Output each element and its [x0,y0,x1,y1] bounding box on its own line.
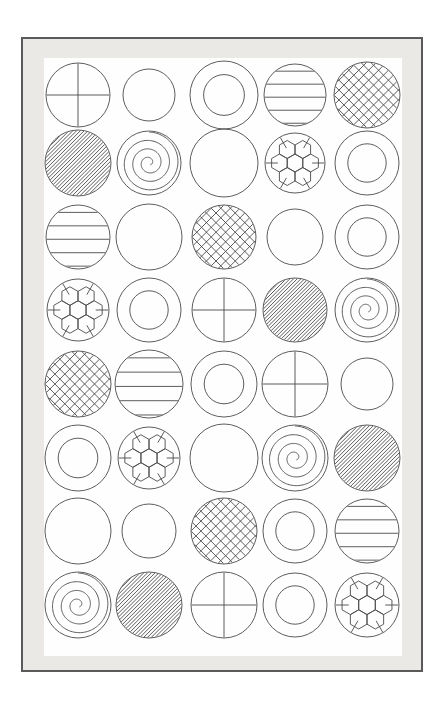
circle-horizontal-stripes [264,64,326,126]
circle-plain [190,424,258,492]
circle-cross [262,351,328,417]
circle-plain [190,129,258,197]
circle-concentric-ring [335,131,399,195]
circle-soccer-hexagon [118,427,180,489]
circle-diagonal-hatch [238,409,425,508]
circle-cross [46,63,110,127]
circle-plain [45,498,111,564]
circle-cross [191,572,257,638]
circle-plain [267,209,323,265]
circle-horizontal-stripes [46,205,110,269]
circle-soccer-hexagon [47,279,109,341]
circle-horizontal-stripes [335,499,399,563]
circle-concentric-ring [45,425,111,491]
circle-spiral [262,425,328,491]
circle-spiral [117,131,181,195]
circle-soccer-hexagon [265,133,325,193]
circle-grid [23,39,425,674]
circle-crosshatch [23,331,197,437]
circle-concentric-ring [263,499,327,563]
circle-spiral [335,278,399,342]
circle-concentric-ring [263,573,327,637]
circle-diagonal-hatch [23,114,204,213]
circle-concentric-ring [117,278,181,342]
circle-plain [341,358,393,410]
circle-horizontal-stripes [115,350,183,418]
cells-layer [23,42,425,654]
circle-plain [116,204,182,270]
circle-plain [122,504,176,558]
circle-concentric-ring [335,205,399,269]
circle-crosshatch [102,186,339,288]
circle-plain [123,69,175,121]
circle-spiral [45,572,111,638]
circle-soccer-hexagon [335,573,399,637]
circle-crosshatch [242,42,425,148]
circle-concentric-ring [190,61,258,129]
circle-cross [192,278,256,342]
circle-concentric-ring [191,351,257,417]
picture-frame [21,37,423,672]
circle-crosshatch [99,478,343,584]
page-canvas [0,0,444,719]
